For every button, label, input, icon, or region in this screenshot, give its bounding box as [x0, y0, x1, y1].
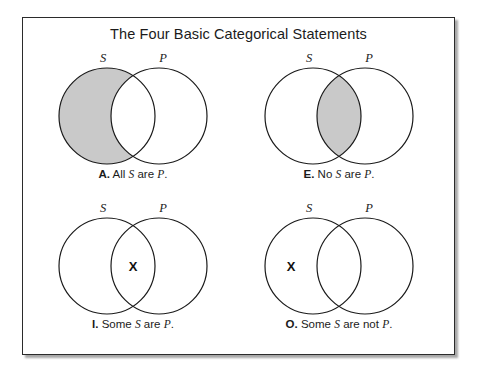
venn-panel-e: S P E. No S are P. [241, 50, 437, 192]
figure-frame: The Four Basic Categorical Statements S … [22, 17, 455, 355]
set-label-p-e: P [364, 51, 373, 65]
caption-o: O. Some S are not P. [241, 318, 437, 330]
caption-mid-o: are not [340, 318, 382, 330]
venn-diagram-o: S P X [241, 200, 437, 320]
caption-tag-o: O. [286, 318, 298, 330]
venn-diagram-i: S P X [35, 200, 231, 320]
circle-s-o [265, 218, 361, 314]
venn-panel-a: S P A. All S are P. [35, 50, 231, 192]
set-label-p-i: P [158, 201, 167, 215]
caption-predicate-i: P [164, 318, 171, 330]
caption-tag-i: I. [92, 318, 98, 330]
caption-tag-a: A. [98, 168, 110, 180]
caption-tag-e: E. [304, 168, 315, 180]
circle-s-i [59, 218, 155, 314]
caption-prefix-o: Some [301, 318, 334, 330]
caption-mid-a: are [134, 168, 157, 180]
set-label-s-i: S [100, 201, 107, 215]
x-marker-i: X [129, 259, 138, 274]
set-label-s-a: S [100, 51, 107, 65]
set-label-s-e: S [306, 51, 313, 65]
set-label-s-o: S [306, 201, 313, 215]
x-marker-o: X [287, 259, 296, 274]
circle-p-i [111, 218, 207, 314]
caption-suffix-i: . [171, 318, 174, 330]
venn-panel-o: S P X O. Some S are not P. [241, 200, 437, 342]
set-label-p-a: P [158, 51, 167, 65]
venn-diagram-a: S P [35, 50, 231, 170]
venn-diagram-e: S P [241, 50, 437, 170]
caption-prefix-a: All [113, 168, 129, 180]
venn-panel-i: S P X I. Some S are P. [35, 200, 231, 342]
caption-prefix-i: Some [102, 318, 135, 330]
circle-p-o [317, 218, 413, 314]
caption-a: A. All S are P. [35, 168, 231, 180]
caption-prefix-e: No [318, 168, 336, 180]
caption-suffix-e: . [371, 168, 374, 180]
caption-suffix-a: . [164, 168, 167, 180]
caption-mid-e: are [341, 168, 364, 180]
set-label-p-o: P [364, 201, 373, 215]
caption-e: E. No S are P. [241, 168, 437, 180]
figure-title: The Four Basic Categorical Statements [23, 26, 454, 42]
caption-suffix-o: . [389, 318, 392, 330]
caption-mid-i: are [141, 318, 164, 330]
shaded-region-left-only-a [35, 50, 231, 170]
caption-i: I. Some S are P. [35, 318, 231, 330]
